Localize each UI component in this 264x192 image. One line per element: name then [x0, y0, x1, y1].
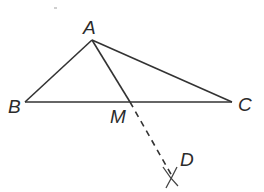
- construction-arc-2: [166, 167, 177, 188]
- extension-md: [130, 102, 172, 176]
- triangle-diagram: A B C M D: [0, 0, 264, 192]
- label-c: C: [238, 94, 252, 115]
- label-m: M: [110, 106, 126, 127]
- label-b: B: [8, 96, 21, 117]
- faint-mark: [54, 7, 57, 9]
- diagram-svg: A B C M D: [0, 0, 264, 192]
- median-am: [92, 40, 130, 102]
- segment-ab: [25, 40, 92, 102]
- label-a: A: [82, 17, 96, 38]
- label-d: D: [180, 149, 194, 170]
- segment-ac: [92, 40, 232, 102]
